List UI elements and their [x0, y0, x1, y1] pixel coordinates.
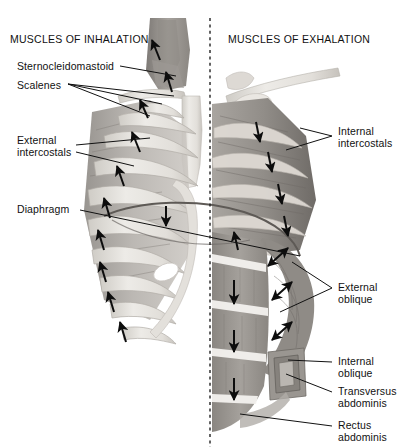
label-external-oblique-line1: External	[338, 282, 377, 294]
header-inhalation: MUSCLES OF INHALATION	[10, 33, 149, 45]
label-external-intercostals-line1: External	[17, 135, 71, 147]
label-internal-oblique-line1: Internal	[338, 356, 374, 368]
label-transversus-abdominis: Transversus abdominis	[338, 386, 396, 409]
header-exhalation: MUSCLES OF EXHALATION	[228, 33, 370, 45]
label-rectus-abdominis-line1: Rectus	[338, 420, 387, 432]
label-transversus-abdominis-line2: abdominis	[338, 398, 396, 410]
label-internal-oblique-line2: oblique	[338, 368, 374, 380]
figure-canvas: MUSCLES OF INHALATION MUSCLES OF EXHALAT…	[0, 0, 413, 447]
label-external-oblique-line2: oblique	[338, 294, 377, 306]
label-internal-intercostals-line2: intercostals	[338, 138, 392, 150]
label-internal-intercostals: Internal intercostals	[338, 126, 392, 149]
label-transversus-abdominis-line1: Transversus	[338, 386, 396, 398]
label-external-oblique: External oblique	[338, 282, 377, 305]
label-internal-intercostals-line1: Internal	[338, 126, 392, 138]
label-sternocleidomastoid: Sternocleidomastoid	[17, 61, 114, 73]
label-rectus-abdominis: Rectus abdominis	[338, 420, 387, 443]
label-rectus-abdominis-line2: abdominis	[338, 432, 387, 444]
label-scalenes: Scalenes	[17, 80, 61, 92]
label-diaphragm: Diaphragm	[17, 204, 69, 216]
label-internal-oblique: Internal oblique	[338, 356, 374, 379]
label-external-intercostals: External intercostals	[17, 135, 71, 158]
label-external-intercostals-line2: intercostals	[17, 147, 71, 159]
